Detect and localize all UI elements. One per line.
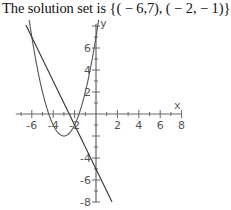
x-tick-label: 6 xyxy=(157,119,164,132)
x-tick-label: 2 xyxy=(114,119,121,132)
graph: -6-4-22468642-4-6-8xy xyxy=(0,0,231,210)
x-tick-label: 4 xyxy=(135,119,142,132)
y-tick-label: -8 xyxy=(80,196,91,209)
y-tick-label: -4 xyxy=(80,152,91,165)
parabola-curve xyxy=(29,20,99,136)
x-axis-label: x xyxy=(174,99,181,112)
y-tick-label: 6 xyxy=(84,42,91,55)
y-axis-label: y xyxy=(100,17,107,30)
x-tick-label: -6 xyxy=(26,119,37,132)
y-tick-label: -6 xyxy=(80,174,91,187)
x-tick-label: 8 xyxy=(178,119,185,132)
